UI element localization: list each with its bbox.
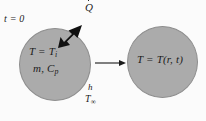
- mass-heat-capacity-subscript: p: [55, 67, 59, 76]
- heat-transfer-figure: t = 0 T = Ti m, Cp h T∞ Q T = T(r, t): [0, 0, 206, 121]
- initial-temperature-label: T = Ti: [29, 46, 57, 59]
- initial-temperature-main: T = T: [29, 45, 55, 57]
- initial-temperature-subscript: i: [55, 50, 57, 59]
- heat-rate-symbol: Q: [85, 2, 93, 13]
- convection-coefficient-label: h: [88, 83, 93, 92]
- transition-arrow: [95, 60, 126, 66]
- ambient-temperature-subscript: ∞: [91, 98, 96, 106]
- heat-rate-label: Q: [85, 2, 93, 13]
- initial-time-label: t = 0: [4, 14, 25, 24]
- transient-temperature-label: T = T(r, t): [137, 54, 183, 65]
- mass-heat-capacity-main: m, C: [33, 62, 55, 74]
- ambient-temperature-label: T∞: [85, 94, 96, 106]
- mass-heat-capacity-label: m, Cp: [33, 63, 59, 76]
